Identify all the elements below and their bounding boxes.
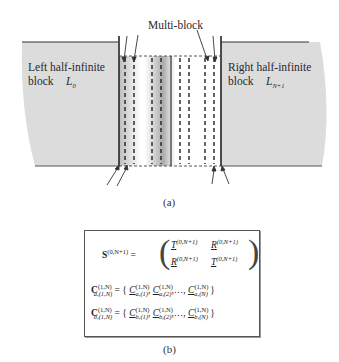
formula-box: S(0,N+1) = ( ) T(0,N+1) R(0,N+1) R(0,N+1… (84, 230, 260, 337)
caption-a: (a) (163, 196, 175, 208)
caption-b: (b) (163, 343, 176, 355)
right-block-symbol: LN+1 (266, 74, 284, 93)
coefficient-set-b: C(1,N)b,(1,N) = { C(1,N)b,(1), C(1,N)b,(… (91, 306, 215, 320)
left-block-label-line2: block (28, 74, 54, 88)
scattering-matrix-lhs: S(0,N+1) = (102, 248, 136, 260)
matrix-r12: R(0,N+1) (211, 238, 238, 250)
multi-block-label: Multi-block (148, 18, 203, 32)
matrix-t22: T(0,N+1) (211, 255, 237, 267)
coefficient-set-a: C(1,N)a,(1,N) = { C(1,N)a,(1), C(1,N)a,(… (91, 283, 215, 297)
left-block-label-line1: Left half-infinite (28, 60, 105, 74)
left-block-symbol: L0 (66, 74, 76, 93)
matrix-r21: R(0,N+1) (171, 255, 198, 267)
matrix-t11: T(0,N+1) (171, 238, 197, 250)
left-paren: ( (159, 235, 170, 269)
right-paren: ) (248, 235, 259, 269)
right-block-label-line2: block (228, 74, 254, 88)
right-block-label-line1: Right half-infinite (228, 60, 311, 74)
